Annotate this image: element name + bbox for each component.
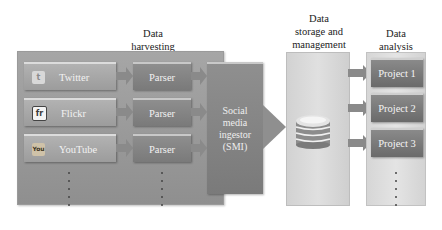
source-flickr: fr Flickr [24, 98, 116, 126]
youtube-icon: You [32, 143, 45, 156]
project-box: Project 2 [371, 93, 423, 122]
parser-box: Parser [133, 134, 191, 162]
more-sources-ellipsis [68, 172, 71, 212]
project-box: Project 3 [371, 128, 423, 157]
parser-label: Parser [149, 72, 175, 83]
flickr-icon: fr [32, 106, 47, 121]
project-label: Project 3 [378, 138, 416, 149]
arrow-right-icon [116, 138, 134, 158]
ingestor-label: Social [219, 105, 251, 117]
database-icon [294, 112, 334, 150]
source-label: YouTube [59, 144, 97, 155]
project-label: Project 2 [378, 103, 416, 114]
project-box: Project 1 [371, 58, 423, 87]
source-label: Twitter [59, 72, 89, 83]
arrow-right-icon [116, 102, 134, 122]
parser-box: Parser [133, 98, 191, 126]
source-label: Flickr [61, 108, 86, 119]
social-media-ingestor-box: Social media ingestor (SMI) [207, 62, 263, 194]
heading-line: Data [118, 27, 188, 40]
arrow-right-icon [191, 138, 208, 158]
ingestor-label: (SMI) [219, 141, 251, 153]
heading-line: storage and [278, 25, 360, 38]
ingestor-label: ingestor [219, 129, 251, 141]
ingestor-label: media [219, 117, 251, 129]
parser-box: Parser [133, 62, 191, 90]
arrow-right-icon [191, 66, 208, 86]
heading-line: Data [278, 12, 360, 25]
more-parsers-ellipsis [161, 172, 164, 212]
twitter-icon: t [32, 71, 45, 84]
arrow-right-icon [116, 66, 134, 86]
heading-data-storage: Data storage and management [278, 12, 360, 51]
source-youtube: You YouTube [24, 134, 116, 162]
heading-line: Data [366, 27, 426, 40]
heading-line: management [278, 38, 360, 51]
arrow-right-icon [263, 105, 287, 149]
project-label: Project 1 [378, 68, 416, 79]
parser-label: Parser [149, 144, 175, 155]
heading-data-analysis: Data analysis [366, 27, 426, 53]
arrow-right-icon [191, 102, 208, 122]
parser-label: Parser [149, 108, 175, 119]
heading-data-harvesting: Data harvesting [118, 27, 188, 53]
more-projects-ellipsis [395, 172, 398, 212]
source-twitter: t Twitter [24, 62, 116, 90]
